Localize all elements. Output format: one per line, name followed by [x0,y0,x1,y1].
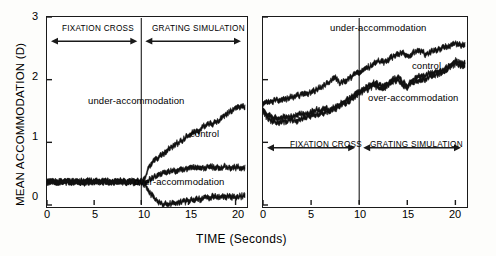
right-xtick-15: 15 [397,208,419,220]
left-xtick-15: 15 [180,208,202,220]
left-label-under-accommodation: under-accommodation [88,95,184,106]
right-label-control: control [412,60,441,71]
left-ytick-2: 2 [28,70,42,82]
accommodation-figure: MEAN ACCOMMODATION (D) TIME (Seconds) 3 … [0,0,496,256]
y-axis-title: MEAN ACCOMMODATION (D) [14,43,26,206]
left-xtick-0: 0 [38,208,56,220]
right-label-over-accommodation: over-accommodation [368,92,459,103]
right-label-under-accommodation: under-accommodation [330,22,426,33]
x-axis-title: TIME (Seconds) [196,232,287,246]
left-phase-grating-simulation: GRATING SIMULATION [152,24,245,33]
right-phase-grating-simulation: GRATING SIMULATION [370,140,463,149]
left-ytick-3: 3 [28,10,42,22]
right-xtick-5: 5 [302,208,320,220]
left-xtick-10: 10 [133,208,155,220]
left-ytick-1: 1 [28,130,42,142]
left-xtick-5: 5 [86,208,104,220]
left-xtick-20: 20 [227,208,249,220]
left-label-over-accommodation: over-accommodation [134,176,225,187]
right-phase-fixation-cross: FIXATION CROSS [290,140,362,149]
right-panel [262,16,468,208]
right-xtick-10: 10 [349,208,371,220]
right-xtick-0: 0 [254,208,272,220]
left-phase-fixation-cross: FIXATION CROSS [62,24,134,33]
left-label-control: control [190,128,219,139]
left-ytick-0: 0 [28,190,42,202]
right-xtick-20: 20 [444,208,466,220]
